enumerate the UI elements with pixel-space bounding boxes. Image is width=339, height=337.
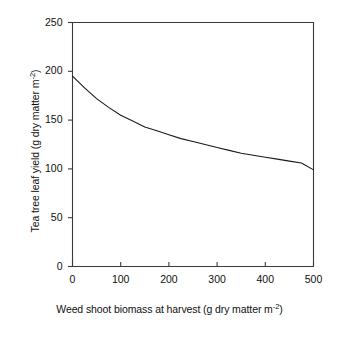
x-tick-label: 200 xyxy=(152,273,186,285)
x-tick-label: 500 xyxy=(297,273,331,285)
y-axis-title-superscript: -2 xyxy=(28,73,37,80)
x-axis-title-main: Weed shoot biomass at harvest (g dry mat… xyxy=(56,303,272,315)
y-axis-ticks xyxy=(68,23,73,267)
y-axis-title-wrapper: Tea tree leaf yield (g dry matter m-2) xyxy=(25,21,41,281)
x-axis-title: Weed shoot biomass at harvest (g dry mat… xyxy=(0,303,339,315)
x-tick-label: 100 xyxy=(104,273,138,285)
x-tick-label: 400 xyxy=(248,273,282,285)
y-axis-title: Tea tree leaf yield (g dry matter m-2) xyxy=(29,70,41,233)
x-tick-label: 300 xyxy=(200,273,234,285)
x-axis-ticks xyxy=(73,262,314,267)
y-axis-title-tail: ) xyxy=(29,70,41,73)
x-axis-title-tail: ) xyxy=(279,303,282,315)
data-series-line xyxy=(73,76,314,170)
chart-figure: 050100150200250 0100200300400500 Tea tre… xyxy=(0,0,339,337)
x-tick-label: 0 xyxy=(56,273,90,285)
y-axis-title-main: Tea tree leaf yield (g dry matter m xyxy=(29,80,41,233)
